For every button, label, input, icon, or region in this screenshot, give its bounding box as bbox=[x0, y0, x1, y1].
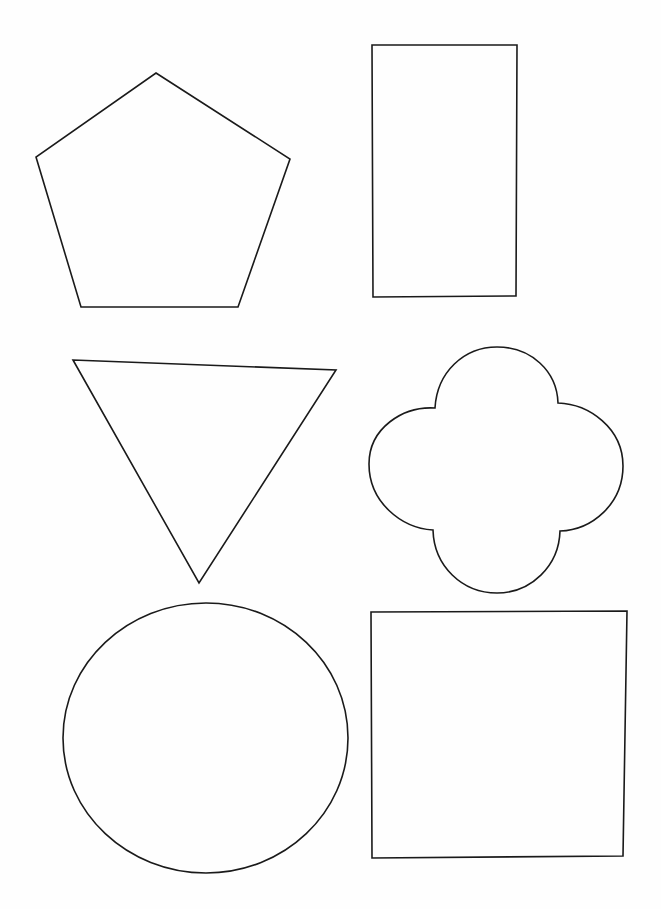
quatrefoil-shape bbox=[369, 347, 623, 593]
square-shape bbox=[371, 611, 627, 858]
shapes-canvas bbox=[0, 0, 661, 909]
rectangle-shape bbox=[372, 45, 517, 297]
shape-group-row-3 bbox=[63, 603, 627, 873]
pentagon-shape bbox=[36, 73, 290, 307]
worksheet-page bbox=[0, 0, 661, 909]
shape-group-row-2 bbox=[73, 347, 623, 593]
shape-group-row-1 bbox=[36, 45, 517, 307]
circle-shape bbox=[63, 603, 348, 873]
inverted-triangle-shape bbox=[73, 360, 336, 583]
